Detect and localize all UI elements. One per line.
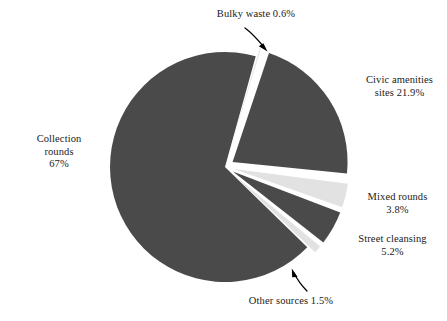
leader-arrow-other-sources	[292, 269, 307, 292]
pie-label-mixed-rounds: Mixed rounds 3.8%	[350, 191, 445, 216]
pie-chart-figure: Bulky waste 0.6% Civic amenities sites 2…	[0, 0, 447, 321]
pie-label-street-cleansing: Street cleansing 5.2%	[340, 233, 445, 258]
pie-label-collection-rounds-line1: Collection	[14, 133, 104, 146]
pie-label-other-sources: Other sources 1.5%	[226, 295, 356, 308]
pie-label-street-cleansing-line1: Street cleansing	[340, 233, 445, 246]
pie-label-other-sources-text: Other sources 1.5%	[226, 295, 356, 308]
pie-label-bulky-waste: Bulky waste 0.6%	[196, 8, 316, 21]
pie-label-collection-rounds: Collection rounds 67%	[14, 133, 104, 171]
pie-label-civic-amenities-line2: sites 21.9%	[352, 87, 447, 100]
pie-label-mixed-rounds-line2: 3.8%	[350, 204, 445, 217]
leader-arrow-bulky-waste	[245, 28, 268, 52]
pie-label-collection-rounds-line3: 67%	[14, 158, 104, 171]
pie-label-civic-amenities: Civic amenities sites 21.9%	[352, 74, 447, 99]
pie-label-civic-amenities-line1: Civic amenities	[352, 74, 447, 87]
pie-label-bulky-waste-text: Bulky waste 0.6%	[196, 8, 316, 21]
pie-label-street-cleansing-line2: 5.2%	[340, 246, 445, 259]
pie-label-mixed-rounds-line1: Mixed rounds	[350, 191, 445, 204]
pie-label-collection-rounds-line2: rounds	[14, 146, 104, 159]
